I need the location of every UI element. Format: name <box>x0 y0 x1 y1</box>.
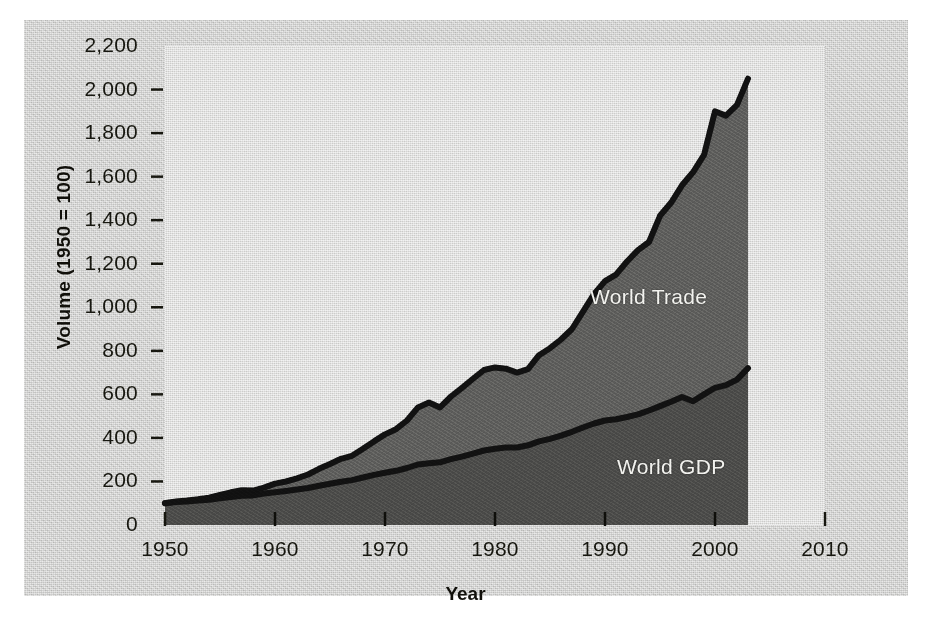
y-tick-label: 200 <box>10 468 138 492</box>
x-tick-label: 1950 <box>115 537 215 561</box>
x-tick-label: 1960 <box>225 537 325 561</box>
chart-figure: 02004006008001,0001,2001,4001,6001,8002,… <box>0 0 931 620</box>
y-tick-label: 2,200 <box>10 33 138 57</box>
x-tick-label: 2000 <box>665 537 765 561</box>
x-tick-label: 1970 <box>335 537 435 561</box>
y-tick-label: 400 <box>10 425 138 449</box>
chart-plot-svg <box>0 0 931 620</box>
x-tick-label: 1980 <box>445 537 545 561</box>
y-tick-label: 2,000 <box>10 77 138 101</box>
series-label-world-gdp: World GDP <box>617 455 726 479</box>
x-axis-title: Year <box>0 583 931 605</box>
y-tick-label: 0 <box>10 512 138 536</box>
x-tick-label: 1990 <box>555 537 655 561</box>
series-label-world-trade: World Trade <box>590 285 707 309</box>
x-tick-label: 2010 <box>775 537 875 561</box>
y-tick-label: 600 <box>10 381 138 405</box>
y-axis-title: Volume (1950 = 100) <box>53 137 75 377</box>
